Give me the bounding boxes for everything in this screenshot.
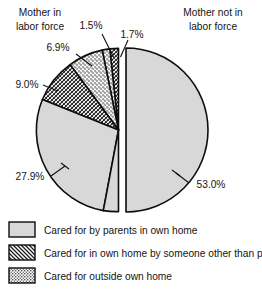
group-label-right-line1: Mother not in [183, 7, 242, 18]
legend-label-parents-own-home: Cared for by parents in own home [44, 225, 198, 236]
legend-swatch-solid [9, 222, 35, 237]
legend-item-other-than-parents: Cared for in own home by someone other t… [9, 245, 262, 260]
group-label-right-line2: labor force [189, 21, 237, 32]
legend-swatch-hatch [9, 245, 35, 260]
slice-label-1-7: 1.7% [120, 29, 143, 40]
group-label-left-line1: Mother in [19, 7, 61, 18]
pie-chart-figure: Mother in labor force Mother not in labo… [0, 0, 262, 298]
slice-label-1-5: 1.5% [79, 20, 102, 31]
group-label-left: Mother in labor force [16, 7, 64, 32]
group-label-left-line2: labor force [16, 21, 64, 32]
legend: Cared for by parents in own home Cared f… [9, 222, 262, 283]
slice-label-6-9: 6.9% [46, 42, 69, 53]
legend-label-outside-own-home: Cared for outside own home [44, 271, 172, 282]
legend-swatch-stipple [9, 268, 35, 283]
group-label-right: Mother not in labor force [183, 7, 242, 32]
slice-label-53-0: 53.0% [197, 179, 226, 190]
slice-label-27-9: 27.9% [16, 171, 45, 182]
legend-label-other-than-parents: Cared for in own home by someone other t… [44, 248, 262, 259]
slice-label-9-0: 9.0% [15, 79, 38, 90]
legend-item-outside-own-home: Cared for outside own home [9, 268, 172, 283]
legend-item-parents-own-home: Cared for by parents in own home [9, 222, 198, 237]
